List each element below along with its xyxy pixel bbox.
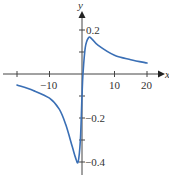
y-axis-arrow-icon [79, 11, 86, 18]
y-tick-label: −0.4 [85, 156, 105, 168]
x-tick-label: 10 [109, 79, 121, 91]
chart: x y −10 10 20 0.2 −0.2 −0.4 [0, 0, 169, 175]
x-axis-arrow-icon [158, 71, 165, 78]
x-tick-label: −10 [40, 79, 58, 91]
x-axis-label: x [164, 68, 169, 80]
y-tick-label: 0.2 [86, 24, 100, 36]
y-tick-label: −0.2 [85, 112, 105, 124]
y-axis-label: y [77, 0, 83, 11]
x-tick-label: 20 [141, 79, 153, 91]
